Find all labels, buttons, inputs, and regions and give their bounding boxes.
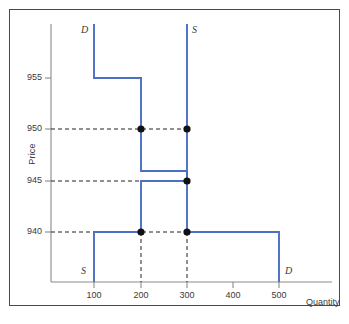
curve-label-supply-top: S: [192, 24, 197, 35]
curve-label-supply-bottom: S: [81, 265, 86, 276]
xtick-label-400: 400: [216, 290, 250, 300]
marker-q300-p950: [183, 125, 190, 132]
vertical-guide-lines: [141, 232, 187, 282]
curve-label-demand-top: D: [81, 24, 88, 35]
xtick-label-300: 300: [170, 290, 204, 300]
marker-q200-p940: [137, 228, 144, 235]
ytick-label-940: 940: [8, 226, 42, 236]
chart-frame: 955 950 945 940 100 200 300 400 500 Pric…: [9, 9, 340, 306]
curve-label-demand-bottom: D: [285, 265, 292, 276]
marker-q200-p950: [137, 125, 144, 132]
marker-q300-p945: [183, 177, 190, 184]
xtick-label-100: 100: [77, 290, 111, 300]
ytick-label-955: 955: [8, 72, 42, 82]
supply-demand-step-plot: [10, 10, 339, 305]
xtick-label-500: 500: [262, 290, 296, 300]
marker-q300-p940: [183, 228, 190, 235]
x-tick-marks: [94, 282, 279, 288]
chart-figure: 955 950 945 940 100 200 300 400 500 Pric…: [0, 0, 349, 324]
y-axis-title: Price: [27, 124, 37, 184]
y-tick-marks: [45, 78, 51, 232]
xtick-label-200: 200: [124, 290, 158, 300]
x-axis-title: Quantity: [306, 297, 340, 307]
